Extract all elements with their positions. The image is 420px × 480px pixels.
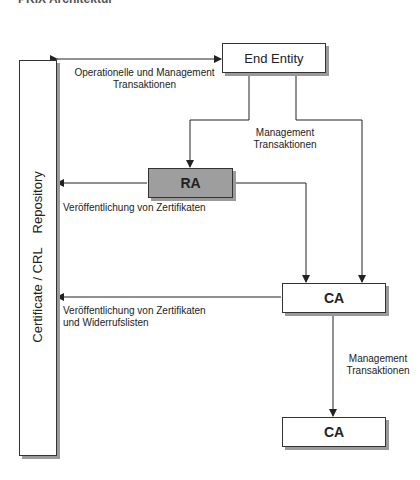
label-line: Veröffentlichung von Zertifikaten	[63, 305, 206, 317]
end-entity-box: End Entity	[222, 43, 326, 73]
label-line: Veröffentlichung von Zertifikaten	[63, 202, 206, 214]
label-line: Transaktionen	[62, 79, 227, 91]
end-entity-label: End Entity	[244, 51, 303, 66]
ca-main-box: CA	[282, 283, 386, 313]
label-line: Transaktionen	[338, 365, 418, 377]
label-publication-ca: Veröffentlichung von Zertifikaten und Wi…	[63, 305, 206, 329]
label-line: Management	[240, 127, 330, 139]
label-management-endentity: Management Transaktionen	[240, 127, 330, 151]
label-management-ca: Management Transaktionen	[338, 353, 418, 377]
label-line: Management	[338, 353, 418, 365]
label-line: Operationelle und Management	[62, 67, 227, 79]
ca-second-box: CA	[282, 417, 386, 447]
repository-label: Certificate / CRL Repository	[30, 171, 45, 342]
arrow-ra-ca	[234, 183, 306, 282]
label-line: und Widerrufslisten	[63, 317, 206, 329]
ra-box: RA	[148, 168, 233, 198]
ca-second-label: CA	[324, 424, 344, 440]
ca-main-label: CA	[324, 290, 344, 306]
label-line: Transaktionen	[240, 139, 330, 151]
label-operational-management: Operationelle und Management Transaktion…	[62, 67, 227, 91]
label-publication-ra: Veröffentlichung von Zertifikaten	[63, 202, 206, 214]
ra-label: RA	[180, 175, 200, 191]
